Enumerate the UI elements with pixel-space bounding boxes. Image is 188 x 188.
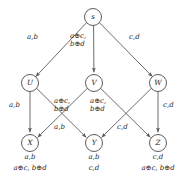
edge-label-s-to-W: c,d (129, 33, 140, 41)
edge-label-V-to-X-line1: a⊕c, (54, 97, 70, 105)
edge-label-V-to-Z: c,d (117, 123, 128, 131)
node-V-label: V (91, 78, 97, 87)
node-annotation-Y: a,b c,d (64, 152, 124, 173)
edge-label-s-to-U-line1: a,b (27, 33, 38, 41)
edge-label-W-to-Y-line1: a⊕c, (90, 97, 106, 105)
edge-label-V-to-X-line2: b⊕d (54, 105, 70, 113)
edge-label-s-to-V-line1: a⊕c, (70, 32, 86, 40)
node-annotation-Y-line1: a,b (64, 152, 124, 163)
edge-label-s-to-U: a,b (27, 33, 38, 41)
node-U-label: U (27, 78, 34, 87)
node-W-label: W (154, 78, 162, 87)
edge-s-to-W (100, 23, 153, 77)
edge-label-U-to-Y-line1: a,b (54, 123, 65, 131)
edge-label-V-to-X: a⊕c, b⊕d (54, 97, 70, 113)
edge-label-s-to-V: a⊕c, b⊕d (70, 32, 86, 48)
node-X-label: X (26, 138, 33, 147)
edge-label-W-to-Z-line1: c,d (163, 101, 174, 109)
node-annotation-Z-line2: a⊕c, b⊕d (128, 163, 188, 174)
node-annotation-Z: c,d a⊕c, b⊕d (128, 152, 188, 173)
edge-label-U-to-Y: a,b (54, 123, 65, 131)
edge-label-W-to-Y: a⊕c, b⊕d (90, 97, 106, 113)
node-annotation-Z-line1: c,d (128, 152, 188, 163)
network-coding-graph-figure: s U V W X Y Z a,b a⊕c, b⊕d c,d a,b a⊕c, … (0, 0, 188, 188)
node-annotation-Y-line2: c,d (64, 163, 124, 174)
node-annotation-X-line2: a⊕c, b⊕d (0, 163, 60, 174)
edge-label-s-to-V-line2: b⊕d (70, 40, 86, 48)
edge-s-to-U (36, 23, 87, 77)
node-annotation-X: a,b a⊕c, b⊕d (0, 152, 60, 173)
node-annotation-X-line1: a,b (0, 152, 60, 163)
edge-label-V-to-Z-line1: c,d (117, 123, 128, 131)
edge-label-U-to-X: a,b (9, 101, 20, 109)
edge-label-U-to-X-line1: a,b (9, 101, 20, 109)
node-s-label: s (91, 12, 95, 21)
edge-label-s-to-W-line1: c,d (129, 33, 140, 41)
node-Z-label: Z (155, 138, 162, 147)
edge-label-W-to-Z: c,d (163, 101, 174, 109)
edge-label-W-to-Y-line2: b⊕d (90, 105, 106, 113)
